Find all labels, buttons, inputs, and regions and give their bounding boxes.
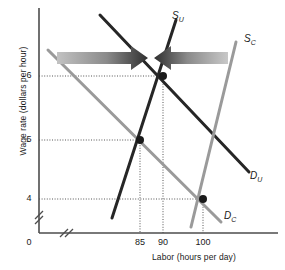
curve-label-sc-sub: C — [251, 39, 256, 46]
x-tick-100: 100 — [191, 237, 215, 247]
curve-label-supply-competitive: SC — [244, 33, 256, 46]
curve-demand-union — [100, 15, 249, 172]
chart-plot-area — [0, 0, 285, 270]
curve-label-su-sub: U — [179, 16, 184, 23]
curve-label-sc-base: S — [244, 33, 251, 44]
curve-label-du-sub: U — [257, 176, 262, 183]
curve-label-demand-union: DU — [250, 170, 262, 183]
equilibrium-point-competitive — [199, 195, 207, 203]
x-tick-90: 90 — [151, 237, 175, 247]
curve-label-supply-union: SU — [172, 10, 184, 23]
x-tick-85: 85 — [128, 237, 152, 247]
curve-label-su-base: S — [172, 10, 179, 21]
y-tick-origin: 0 — [22, 237, 36, 247]
curve-supply-competitive — [191, 42, 236, 227]
curve-label-demand-competitive: DC — [224, 210, 236, 223]
y-axis-title: Wage rate (dollars per hour) — [18, 26, 28, 176]
curve-label-dc-sub: C — [231, 216, 236, 223]
x-axis-title: Labor (hours per day) — [152, 252, 236, 262]
equilibrium-point-union — [159, 72, 167, 80]
y-tick-4: 4 — [22, 193, 36, 203]
equilibrium-point-wage5 — [136, 136, 144, 144]
curve-demand-competitive — [48, 50, 221, 222]
demand-shift-arrow — [57, 46, 148, 70]
supply-demand-chart: 6 5 4 0 85 90 100 Wage rate (dollars per… — [0, 0, 285, 270]
